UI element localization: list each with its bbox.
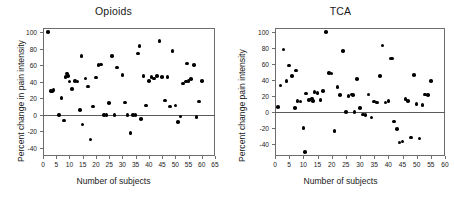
x-axis-tick: [332, 156, 333, 159]
x-axis-tick: [136, 156, 137, 159]
data-point: [99, 63, 103, 67]
data-point: [121, 73, 125, 77]
chart-panel-opioids: Opioids Number of subjects Percent chang…: [0, 0, 227, 200]
panel-title: TCA: [227, 5, 454, 17]
x-axis-tick-label: 20: [92, 161, 99, 168]
data-point: [134, 113, 138, 117]
data-point: [358, 106, 362, 110]
x-axis-tick-label: 65: [211, 161, 218, 168]
y-axis-tick-label: 60: [247, 61, 269, 68]
data-point: [107, 101, 111, 105]
data-point: [189, 77, 193, 81]
data-point: [160, 75, 164, 79]
y-axis-tick-label: 80: [247, 45, 269, 52]
x-axis-title: Number of subjects: [227, 176, 454, 186]
x-axis-tick-label: 25: [105, 161, 112, 168]
data-point: [336, 85, 340, 89]
data-point: [429, 79, 433, 83]
data-point: [52, 88, 56, 92]
y-axis-tick-label: 20: [15, 95, 37, 102]
x-axis-tick-label: 60: [198, 161, 205, 168]
data-point: [46, 30, 50, 34]
y-axis-tick-label: 60: [15, 62, 37, 69]
plot-area: [43, 28, 215, 156]
data-point: [110, 54, 114, 58]
data-point: [80, 54, 84, 58]
data-point: [355, 77, 359, 81]
data-point: [200, 79, 204, 83]
x-axis-tick: [275, 156, 276, 159]
y-axis-tick: [272, 144, 275, 145]
y-axis-tick-label: 0: [15, 111, 37, 118]
x-axis-tick: [96, 156, 97, 159]
x-axis-tick: [149, 156, 150, 159]
chart-panel-tca: TCA Number of subjects Percent change pa…: [227, 0, 454, 200]
data-point: [316, 91, 320, 95]
x-axis-tick: [43, 156, 44, 159]
x-axis-tick-label: 40: [145, 161, 152, 168]
x-axis-tick: [56, 156, 57, 159]
x-axis-tick-label: 10: [66, 161, 73, 168]
x-axis-tick-label: 5: [54, 161, 58, 168]
data-point: [387, 99, 391, 103]
data-point: [426, 93, 430, 97]
data-point: [311, 99, 315, 103]
data-point: [163, 99, 167, 103]
x-axis-tick-label: 60: [441, 161, 448, 168]
x-axis-tick: [431, 156, 432, 159]
y-axis-tick: [40, 82, 43, 83]
x-axis-tick: [109, 156, 110, 159]
x-axis-tick-label: 10: [300, 161, 307, 168]
y-axis-tick: [272, 32, 275, 33]
data-point: [406, 99, 410, 103]
x-axis-tick-label: 30: [356, 161, 363, 168]
y-axis-tick-label: -20: [15, 128, 37, 135]
y-axis-tick: [272, 128, 275, 129]
x-axis-tick-label: 5: [287, 161, 291, 168]
y-axis-tick: [40, 115, 43, 116]
y-axis-tick: [40, 49, 43, 50]
x-axis-tick-label: 50: [413, 161, 420, 168]
data-point: [129, 131, 133, 135]
data-point: [78, 108, 82, 112]
y-axis-tick: [40, 32, 43, 33]
x-axis-tick: [215, 156, 216, 159]
data-point: [168, 105, 172, 109]
x-axis-tick: [374, 156, 375, 159]
data-point: [176, 120, 180, 124]
x-axis-tick: [303, 156, 304, 159]
data-point: [70, 87, 74, 91]
x-axis-tick: [388, 156, 389, 159]
y-axis-tick-label: 40: [15, 78, 37, 85]
y-axis-title: Percent change pain intensity: [237, 49, 247, 162]
x-axis-tick-label: 45: [158, 161, 165, 168]
x-axis-tick: [318, 156, 319, 159]
x-axis-tick-label: 50: [172, 161, 179, 168]
data-point: [285, 79, 289, 83]
x-axis-tick-label: 35: [370, 161, 377, 168]
data-point: [351, 93, 355, 97]
data-point: [192, 63, 196, 67]
data-point: [319, 98, 323, 102]
y-axis-tick: [40, 148, 43, 149]
x-axis-tick: [69, 156, 70, 159]
data-point: [338, 93, 342, 97]
data-point: [344, 110, 348, 114]
data-point: [147, 79, 151, 83]
y-axis-tick-label: 100: [15, 29, 37, 36]
data-point: [395, 127, 399, 131]
data-point: [341, 49, 345, 53]
x-axis-tick: [162, 156, 163, 159]
data-point: [113, 113, 117, 117]
y-axis-tick: [272, 96, 275, 97]
data-point: [324, 30, 328, 34]
x-axis-tick-label: 55: [427, 161, 434, 168]
panel-title: Opioids: [0, 5, 227, 17]
data-point: [290, 74, 294, 78]
x-axis-title: Number of subjects: [0, 176, 227, 186]
x-axis-tick: [346, 156, 347, 159]
data-point: [303, 150, 307, 154]
y-axis-tick-label: 80: [15, 45, 37, 52]
data-point: [94, 76, 98, 80]
x-axis-tick: [83, 156, 84, 159]
